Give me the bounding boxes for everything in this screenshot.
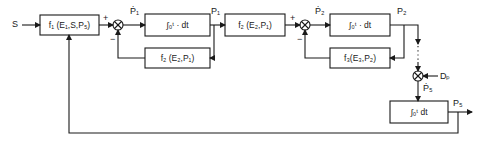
block-feedback-f2-label: f₂ (E₂,P₁) (145, 48, 210, 68)
junction-2-minus: − (297, 35, 302, 44)
block-f1-label: f₁ (E₁,S,P₅) (40, 15, 99, 35)
signal-p1: P₁ (211, 7, 220, 16)
block-f2-label: f₂ (E₂,P₁) (225, 14, 285, 36)
signal-p2dot: Ṗ₂ (315, 7, 325, 16)
block-integrator-2-label: ∫₀ᵗ · dt (330, 14, 390, 36)
signal-p5: P₅ (453, 99, 463, 108)
signal-dp: Dₚ (440, 72, 451, 81)
signal-p2: P₂ (397, 7, 407, 16)
block-integrator-1-label: ∫₀ᵗ · dt (145, 14, 210, 36)
signal-p1dot: Ṗ₁ (130, 7, 139, 16)
signal-p5dot: Ṗ₅ (423, 84, 433, 93)
junction-2-plus: + (290, 14, 295, 23)
block-integrator-3-label: ∫₀ᵗ dt (390, 101, 448, 123)
input-label-s: S (12, 20, 18, 29)
block-feedback-f3-label: f₃(E₃,P₂) (330, 48, 390, 68)
junction-1-plus: + (103, 14, 108, 23)
junction-1-minus: − (110, 35, 115, 44)
